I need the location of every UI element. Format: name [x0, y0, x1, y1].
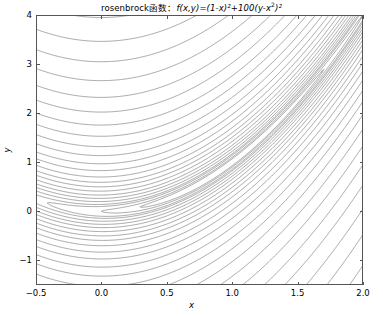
- y-tick-label: 4: [0, 10, 36, 20]
- y-tick-mark: [36, 211, 40, 212]
- contour-line: [36, 15, 363, 224]
- plot-area: [36, 15, 363, 285]
- contour-line: [36, 15, 363, 285]
- chart-title: rosenbrock函数：f(x,y)=(1-x)²+100(y-x2)²: [0, 1, 383, 13]
- y-tick-label: −1: [0, 255, 36, 265]
- y-axis-label: y: [2, 147, 12, 152]
- x-tick-mark-top: [298, 15, 299, 19]
- x-tick-mark: [298, 282, 299, 286]
- title-tail: )²: [275, 3, 282, 13]
- title-equals: =(1-: [199, 3, 218, 13]
- y-tick-mark-right: [360, 211, 364, 212]
- chart-title-formula: f(x,y)=(1-x)²+100(y-x2)²: [176, 3, 282, 13]
- y-tick-mark: [36, 162, 40, 163]
- y-tick-mark-right: [360, 260, 364, 261]
- rosenbrock-contour-figure: rosenbrock函数：f(x,y)=(1-x)²+100(y-x2)² −1…: [0, 0, 383, 316]
- contour-line: [36, 15, 363, 276]
- y-tick-mark-right: [360, 113, 364, 114]
- contour-line: [36, 15, 363, 285]
- x-tick-mark-top: [36, 15, 37, 19]
- x-tick-label: 0.5: [160, 288, 174, 298]
- y-tick-mark: [36, 260, 40, 261]
- x-tick-mark: [363, 282, 364, 286]
- y-tick-mark-right: [360, 162, 364, 163]
- x-tick-mark: [167, 282, 168, 286]
- contour-line: [350, 265, 363, 285]
- x-tick-mark-top: [232, 15, 233, 19]
- contour-line: [36, 15, 363, 285]
- contour-line: [36, 15, 363, 246]
- x-tick-mark-top: [167, 15, 168, 19]
- y-tick-label: 2: [0, 108, 36, 118]
- x-tick-mark: [232, 282, 233, 286]
- contour-line: [327, 234, 363, 285]
- contour-line: [36, 15, 363, 285]
- title-plus: )²+100(: [224, 3, 258, 13]
- x-tick-label: −0.5: [26, 288, 47, 298]
- contour-line: [36, 15, 363, 252]
- y-tick-mark: [36, 64, 40, 65]
- contour-line: [36, 15, 363, 285]
- x-tick-label: 1.5: [291, 288, 305, 298]
- y-tick-mark-right: [360, 64, 364, 65]
- x-tick-mark-top: [101, 15, 102, 19]
- x-tick-label: 0.0: [95, 288, 109, 298]
- chart-title-name: rosenbrock函数：: [101, 3, 176, 13]
- contour-line: [36, 15, 363, 285]
- x-axis-label: x: [0, 300, 383, 310]
- x-tick-mark: [101, 282, 102, 286]
- y-tick-mark: [36, 113, 40, 114]
- title-args: (x,y): [179, 3, 199, 13]
- y-tick-label: 1: [0, 157, 36, 167]
- contour-line: [36, 15, 363, 285]
- contour-lines: [36, 15, 363, 285]
- x-tick-label: 1.0: [225, 288, 239, 298]
- y-tick-label: 0: [0, 206, 36, 216]
- contour-line: [140, 69, 324, 207]
- x-tick-label: 2.0: [356, 288, 370, 298]
- x-tick-mark: [36, 282, 37, 286]
- contour-line: [36, 15, 363, 259]
- y-tick-label: 3: [0, 59, 36, 69]
- x-tick-mark-top: [363, 15, 364, 19]
- contour-line: [36, 15, 363, 236]
